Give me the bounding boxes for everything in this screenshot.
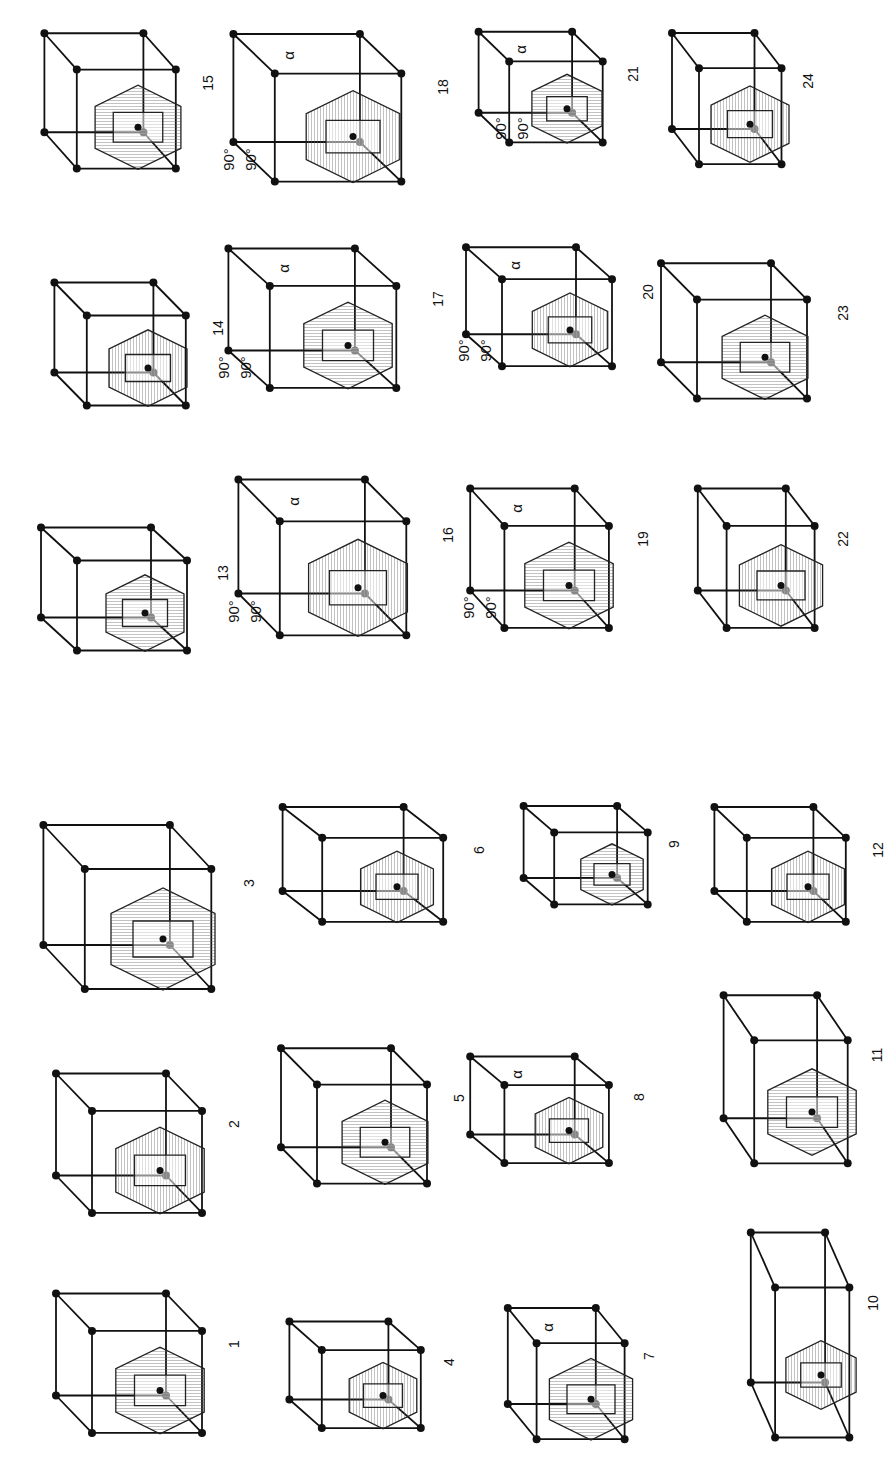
lattice-panel-2: 2: [40, 1065, 240, 1235]
lattice-drawing-icon: [40, 275, 220, 425]
panel-number-label: 8: [631, 1093, 647, 1101]
lattice-panel-16: 1690°90°α: [220, 470, 450, 660]
panel-number-label: 11: [869, 1047, 885, 1062]
lattice-drawing-icon: [215, 25, 445, 205]
alpha-angle-label: α: [285, 497, 302, 506]
panel-number-label: 6: [471, 846, 487, 854]
alpha-angle-label: α: [280, 51, 297, 60]
panel-number-label: 24: [800, 73, 816, 89]
alpha-angle-label: α: [506, 262, 523, 271]
panel-number-label: 17: [430, 291, 446, 307]
panel-number-label: 12: [870, 842, 886, 858]
lattice-drawing-icon: [455, 1050, 645, 1180]
lattice-drawing-icon: [495, 1300, 655, 1460]
lattice-drawing-icon: [455, 480, 645, 650]
lattice-drawing-icon: [40, 1285, 240, 1455]
panel-number-label: 16: [440, 527, 456, 543]
lattice-drawing-icon: [265, 1040, 465, 1205]
lattice-drawing-icon: [645, 255, 845, 420]
lattice-drawing-icon: [40, 1065, 240, 1235]
right-angle-label: 90°: [492, 117, 509, 140]
right-angle-label: 90°: [477, 339, 494, 362]
lattice-panel-11: 11: [710, 985, 880, 1190]
lattice-panel-17: 1790°90°α: [210, 240, 440, 410]
lattice-panel-18: 1890°90°α: [215, 25, 445, 205]
lattice-drawing-icon: [465, 25, 635, 160]
panel-number-label: 9: [666, 840, 682, 848]
lattice-panel-9: 9: [510, 800, 680, 920]
lattice-drawing-icon: [740, 1220, 875, 1470]
lattice-drawing-icon: [210, 240, 440, 410]
panel-number-label: 2: [226, 1120, 242, 1128]
lattice-panel-23: 23: [645, 255, 845, 420]
alpha-angle-label: α: [275, 265, 292, 274]
lattice-panel-8: 8α: [455, 1050, 645, 1180]
panel-number-label: 1: [226, 1340, 242, 1348]
panel-number-label: 19: [635, 531, 651, 547]
lattice-drawing-icon: [450, 240, 650, 385]
lattice-panel-13: 13: [25, 520, 225, 670]
lattice-drawing-icon: [710, 985, 880, 1190]
lattice-drawing-icon: [265, 800, 485, 940]
lattice-drawing-icon: [660, 25, 810, 185]
panel-number-label: 18: [435, 79, 451, 95]
lattice-panel-5: 5: [265, 1040, 465, 1205]
right-angle-label: 90°: [460, 596, 477, 619]
panel-number-label: 3: [241, 879, 257, 887]
lattice-panel-10: 10: [740, 1220, 875, 1470]
alpha-angle-label: α: [539, 1323, 556, 1332]
right-angle-label: 90°: [482, 596, 499, 619]
lattice-panel-15: 15: [30, 25, 210, 190]
right-angle-label: 90°: [455, 339, 472, 362]
lattice-panel-19: 1990°90°α: [455, 480, 645, 650]
panel-number-label: 7: [641, 1352, 657, 1360]
right-angle-label: 90°: [220, 148, 237, 171]
right-angle-label: 90°: [514, 117, 531, 140]
lattice-panel-20: 2090°90°α: [450, 240, 650, 385]
lattice-panel-21: 21α90°90°: [465, 25, 635, 160]
lattice-drawing-icon: [275, 1315, 455, 1445]
lattice-panel-22: 22: [685, 480, 845, 650]
right-angle-label: 90°: [215, 356, 232, 379]
lattice-panel-3: 3: [25, 815, 255, 1015]
panel-number-label: 10: [865, 1295, 881, 1311]
panel-number-label: 4: [441, 1358, 457, 1366]
lattice-panel-6: 6: [265, 800, 485, 940]
panel-number-label: 15: [200, 75, 216, 91]
lattice-drawing-icon: [25, 815, 255, 1015]
lattice-drawing-icon: [25, 520, 225, 670]
lattice-drawing-icon: [220, 470, 450, 660]
lattice-panel-14: 14: [40, 275, 220, 425]
panel-number-label: 23: [835, 305, 851, 321]
lattice-drawing-icon: [30, 25, 210, 190]
lattice-drawing-icon: [510, 800, 680, 920]
right-angle-label: 90°: [242, 148, 259, 171]
lattice-panel-4: 4: [275, 1315, 455, 1445]
lattice-panel-1: 1: [40, 1285, 240, 1455]
alpha-angle-label: α: [512, 45, 529, 54]
lattice-panel-24: 24: [660, 25, 810, 185]
lattice-panel-7: 7α: [495, 1300, 655, 1460]
right-angle-label: 90°: [225, 600, 242, 623]
panel-number-label: 21: [625, 66, 641, 82]
right-angle-label: 90°: [247, 600, 264, 623]
panel-number-label: 22: [835, 531, 851, 547]
lattice-drawing-icon: [700, 800, 880, 940]
lattice-drawing-icon: [685, 480, 845, 650]
alpha-angle-label: α: [508, 1070, 525, 1079]
right-angle-label: 90°: [237, 356, 254, 379]
alpha-angle-label: α: [508, 505, 525, 514]
lattice-panel-12: 12: [700, 800, 880, 940]
